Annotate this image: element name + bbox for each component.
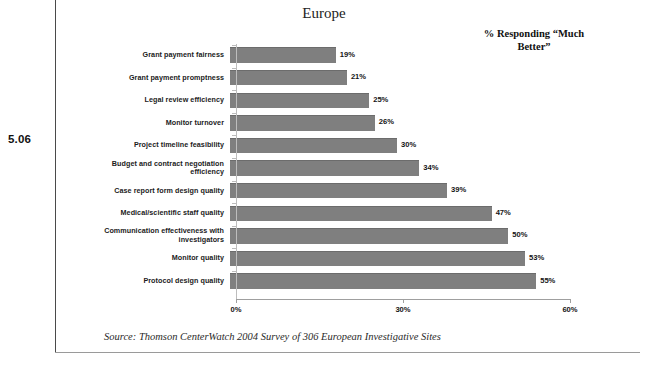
bar [230,251,525,266]
chart-bar-row: Case report form design quality39% [86,180,586,203]
category-axis-tick [232,226,236,227]
bar [230,93,369,108]
bar-zone: 34% [230,157,586,180]
bar-value-label: 34% [423,163,438,172]
chart-bar-row: Budget and contract negotiation efficien… [86,157,586,180]
category-label: Monitor turnover [86,119,230,128]
bar-zone: 21% [230,67,586,90]
category-axis-tick [232,203,236,204]
category-axis-tick [232,181,236,182]
category-axis-tick [232,68,236,69]
page-left-rule [55,0,56,352]
bar [230,70,347,85]
category-label: Monitor quality [86,254,230,263]
chart-bar-row: Grant payment promptness21% [86,67,586,90]
category-label: Communication effectiveness with investi… [86,227,230,244]
bar-value-label: 19% [340,50,355,59]
value-axis-tick [403,299,404,303]
bar [230,47,336,62]
category-axis-tick [232,248,236,249]
chart-bar-row: Grant payment fairness19% [86,44,586,67]
category-axis-line [236,44,237,299]
chart-bar-row: Legal review efficiency25% [86,89,586,112]
bar [230,183,447,198]
bar-value-label: 55% [540,276,555,285]
bar-zone: 19% [230,44,586,67]
value-axis-tick-label: 30% [395,305,410,314]
legend-note-line-1: % Responding “Much [466,27,602,40]
category-label: Grant payment promptness [86,74,230,83]
page-bottom-rule [55,352,640,353]
chart-bar-row: Medical/scientific staff quality47% [86,202,586,225]
bar-value-label: 53% [529,253,544,262]
chart-bar-row: Protocol design quality55% [86,270,586,293]
bar-zone: 53% [230,247,586,270]
bar-value-label: 39% [451,185,466,194]
bar-value-label: 26% [379,117,394,126]
bar [230,160,419,175]
category-axis-tick [232,90,236,91]
category-label: Budget and contract negotiation efficien… [86,160,230,177]
value-axis-tick [236,299,237,303]
category-label: Project timeline feasibility [86,141,230,150]
chart-plot-area: Grant payment fairness19%Grant payment p… [86,44,586,299]
category-label: Case report form design quality [86,187,230,196]
bar [230,206,492,221]
bar-value-label: 30% [401,140,416,149]
bar-value-label: 50% [512,230,527,239]
chart-bar-row: Monitor quality53% [86,247,586,270]
category-label: Protocol design quality [86,277,230,286]
bar-zone: 47% [230,202,586,225]
bar-value-label: 47% [496,208,511,217]
bar-zone: 50% [230,225,586,248]
category-label: Grant payment fairness [86,51,230,60]
bar-value-label: 25% [373,95,388,104]
category-label: Medical/scientific staff quality [86,209,230,218]
category-label: Legal review efficiency [86,96,230,105]
value-axis-tick [570,299,571,303]
bar-zone: 30% [230,134,586,157]
category-axis-tick [232,158,236,159]
bar [230,115,375,130]
bar-zone: 55% [230,270,586,293]
value-axis-tick-label: 0% [231,305,242,314]
bar [230,138,397,153]
bar-zone: 39% [230,180,586,203]
bar-value-label: 21% [351,72,366,81]
value-axis-tick-label: 60% [562,305,577,314]
category-axis-tick [232,135,236,136]
source-note: Source: Thomson CenterWatch 2004 Survey … [104,331,441,342]
bar [230,228,508,243]
bar-zone: 25% [230,89,586,112]
bar-zone: 26% [230,112,586,135]
category-axis-tick [232,271,236,272]
category-axis-tick [232,45,236,46]
figure-number: 5.06 [8,133,31,145]
chart-bar-row: Communication effectiveness with investi… [86,225,586,248]
chart-bar-row: Project timeline feasibility30% [86,134,586,157]
category-axis-tick [232,113,236,114]
chart-title: Europe [0,5,648,22]
bar [230,273,536,288]
chart-bar-row: Monitor turnover26% [86,112,586,135]
